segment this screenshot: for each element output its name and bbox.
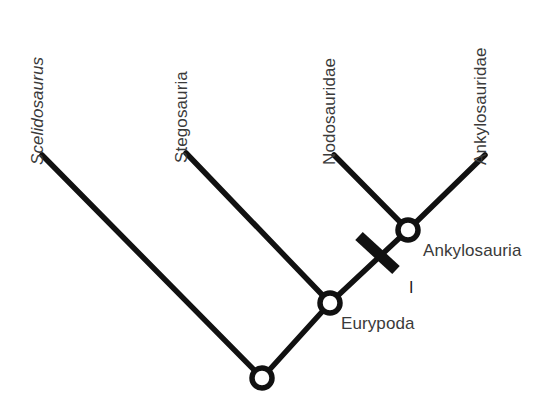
taxon-label-ankylosauridae: Ankylosauridae <box>472 47 489 165</box>
character-tick-label: I <box>409 280 413 296</box>
taxon-label-stegosauria: Stegosauria <box>173 71 190 163</box>
clade-label-eurypoda: Eurypoda <box>341 315 415 332</box>
phylogenetic-tree-svg <box>0 0 549 413</box>
taxon-label-nodosauridae: Nodosauridae <box>321 58 338 165</box>
figure-background <box>0 0 549 413</box>
root-node <box>252 368 272 388</box>
ankylosauria-node <box>398 220 418 240</box>
taxon-label-scelidosaurus: Scelidosaurus <box>29 57 46 165</box>
clade-label-ankylosauria: Ankylosauria <box>423 242 522 259</box>
cladogram-figure: Scelidosaurus Stegosauria Nodosauridae A… <box>0 0 549 413</box>
eurypoda-node <box>320 293 340 313</box>
